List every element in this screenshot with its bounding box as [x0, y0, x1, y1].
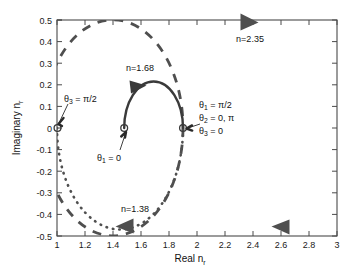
annotation-theta3-pi-over-2: θ3 = π/2	[64, 94, 97, 105]
y-tick-label: -0.2	[36, 167, 52, 177]
x-tick-label: 2	[194, 240, 199, 250]
y-tick-label: -0.4	[36, 210, 52, 220]
theta-rest: = 0	[106, 153, 121, 163]
theta-rest: = π/2	[73, 94, 97, 104]
y-tick-label: 0	[47, 124, 52, 134]
x-tick-label: 1	[54, 240, 59, 250]
y-tick-label: 0.4	[39, 37, 52, 47]
theta-rest: = π/2	[208, 100, 232, 110]
x-tick-label: 1.4	[107, 240, 120, 250]
y-tick-label: -0.5	[36, 232, 52, 242]
x-tick-label: 1.6	[135, 240, 148, 250]
svg-text:Real nr: Real nr	[174, 253, 206, 266]
y-tick-label: -0.3	[36, 188, 52, 198]
label-n138: n=1.38	[121, 204, 149, 214]
y-tick-label: 0.2	[39, 80, 52, 90]
y-axis-title: Imaginary nr	[11, 100, 24, 155]
label-n235: n=2.35	[236, 34, 264, 44]
y-tick-label: 0.5	[39, 16, 52, 26]
annotation-theta1-zero: θ1 = 0	[97, 153, 121, 164]
theta-rest: = 0	[208, 126, 223, 136]
svg-text:θ3 = π/2: θ3 = π/2	[64, 94, 97, 105]
x-tick-label: 2.4	[247, 240, 260, 250]
theta-rest: = 0, π	[208, 113, 234, 123]
svg-text:θ1 = 0: θ1 = 0	[97, 153, 121, 164]
annotation-theta3-line: θ3 = 0	[199, 126, 223, 137]
label-n168: n=1.68	[126, 63, 154, 73]
x-tick-label: 2.6	[275, 240, 288, 250]
y-tick-label: -0.1	[36, 145, 52, 155]
y-tick-label: 0.3	[39, 59, 52, 69]
y-axis-title-text: Imaginary n	[11, 103, 22, 155]
x-tick-label: 2.2	[219, 240, 232, 250]
x-tick-label: 3	[334, 240, 339, 250]
svg-text:Imaginary nr: Imaginary nr	[11, 100, 24, 155]
annotation-theta1-line: θ1 = π/2	[199, 100, 232, 111]
figure-container: 0.5 0.4 0.3 0.2 0.1 0 -0.1 -0.2 -0.3 -0.…	[0, 0, 349, 277]
x-tick-label: 1.2	[79, 240, 92, 250]
y-tick-label: 0.1	[39, 102, 52, 112]
x-axis-title: Real nr	[174, 253, 206, 266]
complex-plane-plot: 0.5 0.4 0.3 0.2 0.1 0 -0.1 -0.2 -0.3 -0.…	[0, 0, 349, 277]
x-tick-label: 2.8	[303, 240, 316, 250]
x-axis-title-text: Real n	[174, 253, 203, 264]
x-tick-label: 1.8	[163, 240, 176, 250]
